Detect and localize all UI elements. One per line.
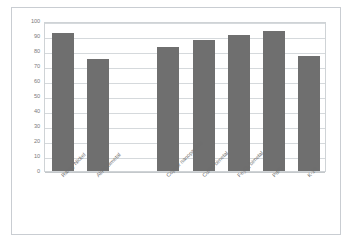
bar-chart: 100 90 80 70 60 50 40 30 20 10 0 Raney N… bbox=[12, 8, 342, 236]
bars-layer bbox=[45, 23, 325, 171]
plot-area bbox=[44, 22, 326, 172]
y-tick-label: 50 bbox=[20, 94, 40, 100]
bar bbox=[157, 47, 179, 172]
y-tick-label: 20 bbox=[20, 139, 40, 145]
y-tick-label: 60 bbox=[20, 79, 40, 85]
y-axis: 100 90 80 70 60 50 40 30 20 10 0 bbox=[18, 8, 40, 236]
y-tick-label: 90 bbox=[20, 34, 40, 40]
gridline bbox=[45, 172, 325, 173]
bar bbox=[298, 56, 320, 171]
bar bbox=[263, 31, 285, 171]
figure-frame: 100 90 80 70 60 50 40 30 20 10 0 Raney N… bbox=[11, 7, 341, 235]
bar bbox=[228, 35, 250, 172]
y-tick-label: 0 bbox=[20, 169, 40, 175]
bar bbox=[87, 59, 109, 172]
y-tick-label: 80 bbox=[20, 49, 40, 55]
y-tick-label: 40 bbox=[20, 109, 40, 115]
y-tick-label: 70 bbox=[20, 64, 40, 70]
y-tick-label: 100 bbox=[20, 19, 40, 25]
y-tick-label: 10 bbox=[20, 154, 40, 160]
y-tick-label: 30 bbox=[20, 124, 40, 130]
bar bbox=[52, 33, 74, 171]
x-axis: Raney NickelAl/Pd bimetalCopper nanopart… bbox=[44, 174, 326, 234]
